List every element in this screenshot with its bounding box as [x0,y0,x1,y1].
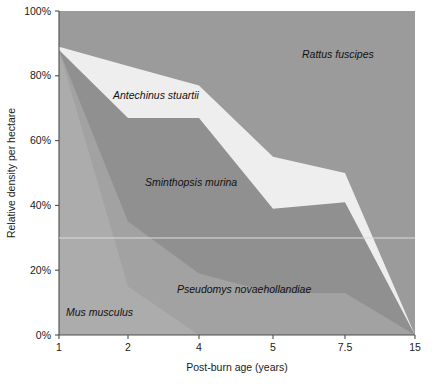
y-axis-ticks: 0%20%40%60%80%100% [24,5,59,341]
x-axis-title: Post-burn age (years) [186,361,288,373]
x-tick-label: 1 [56,341,62,353]
stacked-area-chart: 0%20%40%60%80%100% 12457.515 Relative de… [0,0,434,384]
x-tick-label: 2 [125,341,131,353]
y-tick-label: 80% [30,69,51,81]
x-tick-label: 5 [270,341,276,353]
series-label-antechinus-stuartii: Antechinus stuartii [112,89,199,101]
chart-figure: 0%20%40%60%80%100% 12457.515 Relative de… [0,0,434,384]
y-tick-label: 0% [36,329,51,341]
x-axis-ticks: 12457.515 [56,335,421,353]
series-label-rattus-fuscipes: Rattus fuscipes [302,48,375,60]
series-label-pseudomys-novaehollandiae: Pseudomys novaehollandiae [177,283,311,295]
x-tick-label: 15 [409,341,421,353]
series-label-mus-musculus: Mus musculus [66,306,134,318]
y-axis-title: Relative density per hectare [5,108,17,238]
y-tick-label: 100% [24,5,51,17]
series-label-sminthopsis-murina: Sminthopsis murina [145,176,237,188]
y-tick-label: 20% [30,264,51,276]
x-tick-label: 7.5 [338,341,353,353]
y-tick-label: 60% [30,134,51,146]
x-tick-label: 4 [196,341,202,353]
y-tick-label: 40% [30,199,51,211]
